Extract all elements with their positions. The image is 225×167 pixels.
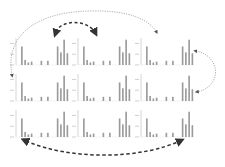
bar: [21, 118, 23, 137]
y-tick-label: [135, 137, 139, 138]
y-tick-label: [135, 115, 139, 116]
bar: [122, 52, 124, 65]
bar: [149, 60, 151, 65]
bar: [166, 97, 168, 101]
bar: [156, 62, 158, 65]
bar: [83, 82, 85, 101]
y-tick-label: [72, 101, 76, 102]
bar: [172, 133, 174, 137]
bar: [153, 134, 155, 137]
bar: [172, 97, 174, 101]
chart-panel-2-2: [134, 109, 196, 139]
y-tick-label: [10, 79, 14, 80]
bar: [125, 40, 127, 65]
bar: [149, 96, 151, 101]
bar: [31, 62, 33, 65]
bar: [146, 46, 148, 65]
bar: [153, 62, 155, 65]
bar: [185, 52, 187, 65]
bar: [63, 112, 65, 137]
bar: [122, 124, 124, 137]
bar: [28, 62, 30, 65]
bar: [153, 98, 155, 101]
bar: [60, 88, 62, 101]
bar: [57, 82, 59, 101]
bar: [119, 118, 121, 137]
bar: [192, 125, 194, 137]
bar: [119, 82, 121, 101]
bar: [21, 82, 23, 101]
bar: [86, 132, 88, 137]
bar: [41, 61, 43, 65]
bar: [119, 46, 121, 65]
bar: [31, 98, 33, 101]
bar: [129, 89, 131, 101]
bar: [109, 97, 111, 101]
y-tick-label: [72, 43, 76, 44]
y-tick-label: [72, 137, 76, 138]
bar: [47, 133, 49, 137]
bar: [31, 134, 33, 137]
bar: [90, 62, 92, 65]
bar: [83, 118, 85, 137]
top-dashed-swap-arrow: [56, 23, 96, 35]
bar: [21, 46, 23, 65]
bar: [103, 133, 105, 137]
bar: [67, 53, 69, 65]
y-tick-label: [10, 137, 14, 138]
y-tick-label: [72, 90, 76, 91]
chart-panel-1-0: [9, 73, 71, 103]
bottom-dashed-arc-arrow: [26, 140, 182, 155]
bar: [122, 88, 124, 101]
y-tick-label: [72, 54, 76, 55]
bar: [146, 82, 148, 101]
bar: [24, 132, 26, 137]
bar: [166, 61, 168, 65]
bar: [192, 53, 194, 65]
bar: [103, 97, 105, 101]
bar: [41, 133, 43, 137]
bar: [90, 98, 92, 101]
bar: [63, 76, 65, 101]
bar: [60, 52, 62, 65]
bar: [28, 134, 30, 137]
chart-panel-0-2: [134, 37, 196, 67]
bar: [57, 46, 59, 65]
diagram-canvas: [0, 0, 225, 167]
y-tick-label: [135, 79, 139, 80]
chart-panel-1-2: [134, 73, 196, 103]
bar: [47, 97, 49, 101]
bar: [63, 40, 65, 65]
y-tick-label: [10, 115, 14, 116]
bar: [182, 118, 184, 137]
bar: [149, 132, 151, 137]
bar: [83, 46, 85, 65]
y-tick-label: [72, 126, 76, 127]
bar: [188, 76, 190, 101]
y-tick-label: [135, 54, 139, 55]
bar: [28, 98, 30, 101]
bar: [156, 98, 158, 101]
bar: [166, 133, 168, 137]
bar: [24, 60, 26, 65]
bar: [172, 61, 174, 65]
chart-panel-0-0: [9, 37, 71, 67]
bar: [67, 125, 69, 137]
y-tick-label: [135, 43, 139, 44]
y-tick-label: [135, 126, 139, 127]
y-tick-label: [72, 79, 76, 80]
bar: [86, 96, 88, 101]
bar: [125, 112, 127, 137]
bar: [125, 76, 127, 101]
bar: [93, 134, 95, 137]
bar: [182, 46, 184, 65]
bar: [185, 124, 187, 137]
bar: [57, 118, 59, 137]
bar: [188, 40, 190, 65]
bar: [41, 97, 43, 101]
bar: [129, 53, 131, 65]
chart-panel-2-0: [9, 109, 71, 139]
chart-panel-1-1: [71, 73, 133, 103]
chart-panel-2-1: [71, 109, 133, 139]
bar: [146, 118, 148, 137]
